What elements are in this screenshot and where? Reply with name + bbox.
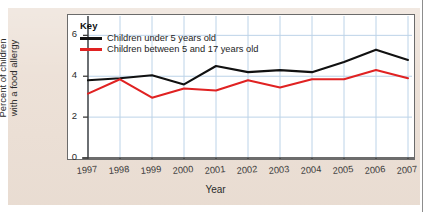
- legend-item-under5: Children under 5 years old: [80, 33, 258, 43]
- y-axis-tick-label: 4: [63, 69, 77, 80]
- page-gutter-rule: [422, 0, 423, 212]
- chart-legend: Key Children under 5 years old Children …: [80, 20, 258, 54]
- y-axis-tick-label: 6: [63, 28, 77, 39]
- legend-label-5to17: Children between 5 and 17 years old: [107, 44, 258, 54]
- legend-swatch-under5: [80, 37, 102, 40]
- y-axis-label: Percent of children with a food allergy: [0, 18, 26, 138]
- chart-page: Key Children under 5 years old Children …: [0, 0, 431, 212]
- line-chart: Key Children under 5 years old Children …: [67, 14, 415, 160]
- y-axis-label-line-2: with a food allergy: [9, 40, 20, 117]
- legend-swatch-5to17: [80, 48, 102, 51]
- legend-title: Key: [80, 20, 258, 31]
- legend-item-5to17: Children between 5 and 17 years old: [80, 44, 258, 54]
- legend-label-under5: Children under 5 years old: [107, 33, 216, 43]
- y-axis-tick-label: 0: [63, 151, 77, 162]
- y-axis-tick-label: 2: [63, 110, 77, 121]
- x-axis-label: Year: [0, 184, 431, 195]
